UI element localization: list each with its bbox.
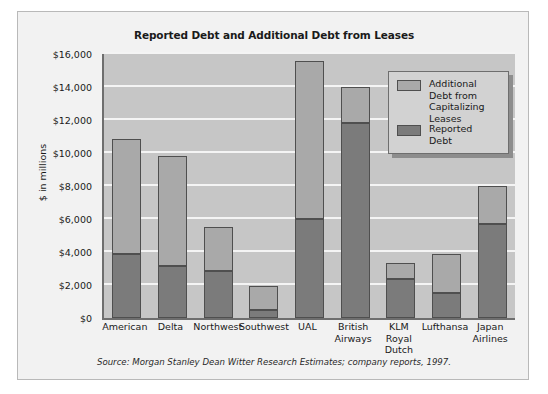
y-axis-tick-labels: $0$2,000$4,000$6,000$8,000$10,000$12,000… xyxy=(18,54,98,318)
source-note: Source: Morgan Stanley Dean Witter Resea… xyxy=(18,357,530,367)
bar-segment-reported-debt xyxy=(295,219,324,318)
bar-group xyxy=(158,157,187,318)
bar-segment-additional-debt xyxy=(295,61,324,219)
bar-segment-additional-debt xyxy=(112,139,141,254)
y-axis-tick-label: $0 xyxy=(80,313,92,324)
bar-group xyxy=(386,264,415,318)
bar-group xyxy=(341,88,370,318)
chart-figure: Reported Debt and Additional Debt from L… xyxy=(0,0,548,394)
bar-segment-additional-debt xyxy=(204,227,233,271)
bar-segment-reported-debt xyxy=(341,123,370,318)
bar-segment-additional-debt xyxy=(386,263,415,279)
x-axis-tick-label: American xyxy=(102,321,148,333)
y-axis-tick-label: $10,000 xyxy=(53,148,92,159)
legend-label: Additional Debt from Capitalizing Leases xyxy=(429,78,485,124)
bar-segment-reported-debt xyxy=(249,310,278,318)
chart-title: Reported Debt and Additional Debt from L… xyxy=(18,29,530,41)
bar-segment-reported-debt xyxy=(432,293,461,318)
legend-swatch xyxy=(397,125,421,136)
y-axis-tick-label: $6,000 xyxy=(59,214,92,225)
y-axis-tick-label: $2,000 xyxy=(59,280,92,291)
x-axis-tick-label: Delta xyxy=(148,321,194,333)
bar-segment-additional-debt xyxy=(341,87,370,123)
x-axis-tick-label: Southwest xyxy=(239,321,285,333)
x-axis-tick-label: JapanAirlines xyxy=(467,321,513,344)
chart-panel: Reported Debt and Additional Debt from L… xyxy=(17,11,529,380)
x-axis-tick-label: Northwest xyxy=(193,321,239,333)
bar-segment-additional-debt xyxy=(478,186,507,224)
bar-segment-reported-debt xyxy=(112,254,141,318)
bar-group xyxy=(204,228,233,318)
bar-segment-additional-debt xyxy=(249,286,278,310)
bar-group xyxy=(249,287,278,318)
bar-segment-reported-debt xyxy=(478,224,507,318)
bar-segment-reported-debt xyxy=(204,271,233,318)
bar-group xyxy=(295,62,324,318)
legend-label: Reported Debt xyxy=(429,123,472,146)
bar-group xyxy=(112,140,141,318)
y-axis-tick-label: $16,000 xyxy=(53,49,92,60)
bar-segment-additional-debt xyxy=(432,254,461,293)
x-axis-tick-label: KLMRoyalDutch xyxy=(376,321,422,356)
bar-group xyxy=(432,255,461,318)
legend-swatch xyxy=(397,80,421,91)
y-axis-tick-label: $8,000 xyxy=(59,181,92,192)
y-axis-tick-label: $4,000 xyxy=(59,247,92,258)
x-axis-tick-label: Lufthansa xyxy=(422,321,468,333)
y-axis-tick-label: $14,000 xyxy=(53,82,92,93)
chart-legend: Additional Debt from Capitalizing Leases… xyxy=(388,71,509,154)
bar-segment-reported-debt xyxy=(386,279,415,318)
x-axis-tick-label: BritishAirways xyxy=(330,321,376,344)
x-axis-tick-label: UAL xyxy=(285,321,331,333)
bar-segment-additional-debt xyxy=(158,156,187,266)
y-axis-tick-label: $12,000 xyxy=(53,115,92,126)
bar-group xyxy=(478,187,507,318)
bar-segment-reported-debt xyxy=(158,266,187,318)
